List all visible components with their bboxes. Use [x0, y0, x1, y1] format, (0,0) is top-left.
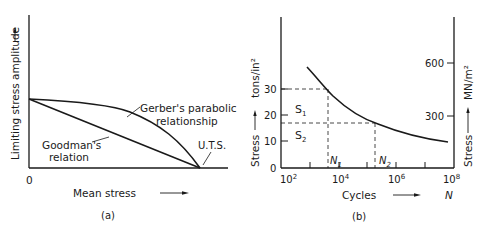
panel-b: 0 10 20 30 600 300 102 104 106 108	[249, 17, 474, 222]
b-left-y-arrowhead	[253, 110, 256, 116]
gerber-label-1: Gerber's parabolic	[140, 102, 237, 114]
b-right-ticks	[447, 63, 454, 116]
b-right-y-label-2: MN/m²	[462, 65, 474, 100]
b-right-y-arrowhead	[466, 107, 469, 113]
a-x-arrowhead	[182, 191, 189, 194]
b-xtick-8: 108	[443, 173, 460, 185]
gerber-label-2: relationship	[156, 115, 218, 127]
a-origin-label: 0	[26, 174, 33, 186]
b-xtick-2: 102	[280, 173, 297, 185]
b-left-y-label-1: Stress	[249, 135, 261, 167]
uts-label: U.T.S.	[198, 140, 226, 151]
b-panel-label: (b)	[352, 211, 366, 222]
b-ytick-0: 0	[270, 163, 276, 174]
a-panel-label: (a)	[101, 210, 115, 221]
goodman-label-2: relation	[49, 151, 89, 163]
b-x-symbol: N	[445, 189, 453, 201]
b-rtick-600: 600	[425, 58, 444, 69]
b-ytick-10: 10	[264, 136, 277, 147]
b-x-ticks	[310, 162, 425, 168]
b-ytick-20: 20	[264, 110, 277, 121]
b-rtick-300: 300	[425, 111, 444, 122]
n2-label: N2	[379, 155, 391, 169]
a-y-label: Limiting stress amplitude	[9, 27, 21, 160]
b-right-y-label-1: Stress	[462, 135, 474, 167]
b-left-y-label-2: tons/in²	[249, 58, 261, 98]
s2-label: S2	[295, 129, 306, 144]
b-x-arrowhead	[414, 193, 421, 196]
s1-label: S1	[295, 103, 306, 118]
b-xtick-4: 104	[332, 173, 350, 185]
goodman-label-1: Goodman's	[42, 139, 101, 151]
b-ytick-30: 30	[264, 84, 277, 95]
n1-label: N1	[330, 155, 342, 169]
panel-a: Limiting stress amplitude 0 Mean stress …	[9, 15, 237, 221]
a-x-label: Mean stress	[73, 187, 136, 199]
b-left-ticks	[281, 89, 288, 141]
b-xtick-6: 106	[388, 173, 406, 185]
uts-leader	[203, 152, 211, 165]
figure: Limiting stress amplitude 0 Mean stress …	[0, 0, 485, 231]
b-x-label: Cycles	[342, 189, 376, 201]
